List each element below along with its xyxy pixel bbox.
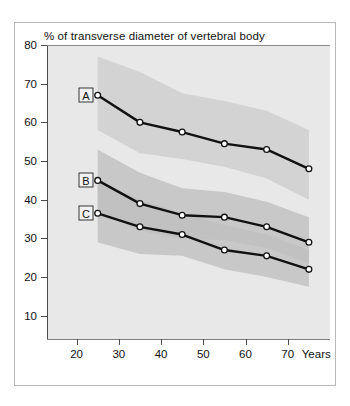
data-point-a-75	[306, 166, 312, 172]
data-point-b-45	[179, 212, 185, 218]
data-point-c-25	[95, 210, 101, 216]
x-tick-mark-60	[246, 339, 247, 345]
chart-title-strip: % of transverse diameter of vertebral bo…	[44, 26, 332, 46]
x-tick-mark-20	[77, 339, 78, 345]
data-point-b-35	[137, 201, 143, 207]
data-point-a-35	[137, 119, 143, 125]
x-tick-label-30: 30	[104, 348, 134, 360]
x-axis-title: Years	[302, 348, 331, 360]
data-point-a-55	[222, 141, 228, 147]
data-point-a-45	[179, 129, 185, 135]
data-point-b-55	[222, 214, 228, 220]
y-tick-label-60: 60	[11, 116, 37, 128]
chart-title: % of transverse diameter of vertebral bo…	[44, 30, 265, 42]
y-tick-label-30: 30	[11, 232, 37, 244]
data-point-c-75	[306, 266, 312, 272]
data-point-c-55	[222, 247, 228, 253]
y-tick-label-10: 10	[11, 310, 37, 322]
data-point-c-45	[179, 232, 185, 238]
y-tick-mark-30	[41, 238, 47, 239]
data-point-a-65	[264, 147, 270, 153]
x-tick-mark-50	[203, 339, 204, 345]
x-tick-label-60: 60	[231, 348, 261, 360]
data-point-b-75	[306, 239, 312, 245]
y-tick-label-70: 70	[11, 78, 37, 90]
y-tick-mark-40	[41, 200, 47, 201]
y-tick-mark-20	[41, 277, 47, 278]
series-label-c: C	[78, 206, 93, 221]
y-tick-label-50: 50	[11, 155, 37, 167]
x-tick-label-40: 40	[146, 348, 176, 360]
series-label-b: B	[78, 173, 93, 188]
x-tick-label-70: 70	[273, 348, 303, 360]
x-tick-mark-30	[119, 339, 120, 345]
x-tick-label-20: 20	[62, 348, 92, 360]
data-point-c-65	[264, 253, 270, 259]
data-point-c-35	[137, 224, 143, 230]
y-tick-label-80: 80	[11, 39, 37, 51]
y-tick-mark-10	[41, 316, 47, 317]
x-tick-label-50: 50	[188, 348, 218, 360]
y-tick-mark-60	[41, 122, 47, 123]
data-point-a-25	[95, 92, 101, 98]
y-tick-mark-80	[41, 45, 47, 46]
y-tick-label-40: 40	[11, 194, 37, 206]
series-label-a: A	[78, 88, 93, 103]
y-tick-label-20: 20	[11, 271, 37, 283]
y-tick-mark-70	[41, 84, 47, 85]
chart-figure: % of transverse diameter of vertebral bo…	[0, 0, 350, 406]
data-point-b-65	[264, 224, 270, 230]
y-tick-mark-50	[41, 161, 47, 162]
data-point-b-25	[95, 177, 101, 183]
x-tick-mark-70	[288, 339, 289, 345]
x-tick-mark-40	[161, 339, 162, 345]
